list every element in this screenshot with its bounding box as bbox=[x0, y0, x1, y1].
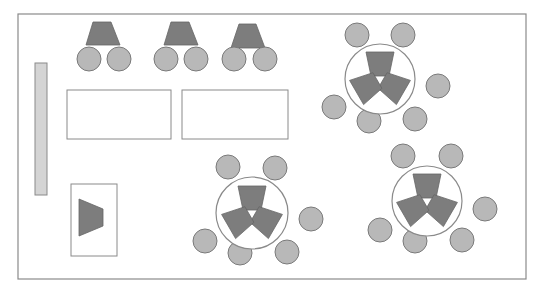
seat bbox=[322, 95, 346, 119]
seat bbox=[154, 47, 178, 71]
long-table bbox=[182, 90, 288, 139]
seat bbox=[193, 229, 217, 253]
seat bbox=[391, 23, 415, 47]
seat bbox=[216, 155, 240, 179]
seat bbox=[77, 47, 101, 71]
seat bbox=[345, 23, 369, 47]
seat bbox=[222, 47, 246, 71]
seat bbox=[391, 144, 415, 168]
seat bbox=[275, 240, 299, 264]
classroom-layout-diagram: Classroom seating layout bbox=[0, 0, 540, 294]
seat bbox=[368, 218, 392, 242]
seat bbox=[107, 47, 131, 71]
long-table bbox=[67, 90, 171, 139]
whiteboard bbox=[35, 63, 47, 195]
group-desk bbox=[413, 174, 441, 198]
group-desk bbox=[366, 52, 394, 76]
seat bbox=[403, 107, 427, 131]
seat bbox=[184, 47, 208, 71]
seat bbox=[426, 74, 450, 98]
group-desk bbox=[238, 186, 266, 210]
seat bbox=[253, 47, 277, 71]
seat bbox=[450, 228, 474, 252]
seat bbox=[299, 207, 323, 231]
seat bbox=[473, 197, 497, 221]
seat bbox=[263, 156, 287, 180]
seat bbox=[439, 144, 463, 168]
